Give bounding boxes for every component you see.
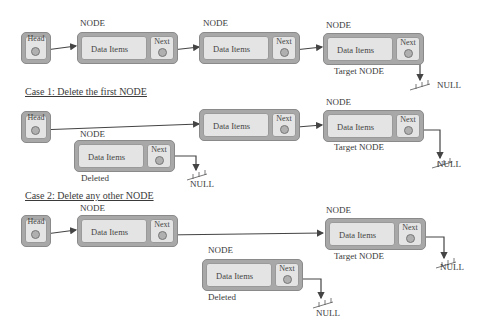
next-pointer: Next xyxy=(150,219,174,243)
pointer-dot-icon xyxy=(158,231,167,240)
deleted-label: Deleted xyxy=(208,292,236,302)
data-items: Data Items xyxy=(329,222,395,246)
data-items: Data Items xyxy=(81,219,147,243)
pointer-dot-icon xyxy=(404,126,413,135)
deleted-label: Deleted xyxy=(81,173,109,183)
node-label: NODE xyxy=(80,18,105,28)
null-label: NULL xyxy=(437,159,461,169)
node-1: Data Items Next xyxy=(77,32,178,64)
head-pointer: Head xyxy=(21,32,51,64)
target-node-label: Target NODE xyxy=(334,251,384,261)
data-items: Data Items xyxy=(81,36,147,60)
node-label: NODE xyxy=(208,245,233,255)
null-label: NULL xyxy=(190,179,214,189)
next-pointer: Next xyxy=(150,36,174,60)
next-pointer: Next xyxy=(396,114,420,138)
null-label: NULL xyxy=(437,80,461,90)
node-label: NODE xyxy=(203,18,228,28)
case-2-title: Case 2: Delete any other NODE xyxy=(25,190,154,201)
pointer-dot-icon xyxy=(155,156,164,165)
data-items: Data Items xyxy=(203,36,269,60)
pointer-dot-icon xyxy=(31,47,40,56)
node-label: NODE xyxy=(80,203,105,213)
head-pointer: Head xyxy=(21,215,51,247)
node-label: NODE xyxy=(80,129,105,139)
pointer-dot-icon xyxy=(31,126,40,135)
case-1-title: Case 1: Delete the first NODE xyxy=(25,86,147,97)
next-pointer: Next xyxy=(398,222,422,246)
node-2: Data Items Next xyxy=(199,109,300,141)
pointer-dot-icon xyxy=(280,125,289,134)
data-items: Data Items xyxy=(203,113,269,137)
head-pointer: Head xyxy=(21,111,51,143)
data-items: Data Items xyxy=(327,114,393,138)
next-pointer: Next xyxy=(396,37,420,61)
node-3-target: Data Items Next xyxy=(325,218,426,250)
target-node-label: Target NODE xyxy=(334,142,384,152)
deleted-node: Data Items Next xyxy=(202,259,303,291)
data-items: Data Items xyxy=(78,144,144,168)
node-1: Data Items Next xyxy=(77,215,178,247)
pointer-dot-icon xyxy=(406,234,415,243)
next-pointer: Next xyxy=(272,113,296,137)
deleted-node: Data Items Next xyxy=(74,140,175,172)
node-3-target: Data Items Next xyxy=(323,110,424,142)
target-node-label: Target NODE xyxy=(334,66,384,76)
next-pointer: Next xyxy=(147,144,171,168)
data-items: Data Items xyxy=(327,37,393,61)
pointer-dot-icon xyxy=(283,275,292,284)
pointer-dot-icon xyxy=(158,48,167,57)
next-pointer: Next xyxy=(275,263,299,287)
node-3-target: Data Items Next xyxy=(323,33,424,65)
data-items: Data Items xyxy=(206,263,272,287)
pointer-dot-icon xyxy=(31,230,40,239)
null-label: NULL xyxy=(440,262,464,272)
node-label: NODE xyxy=(326,20,351,30)
pointer-dot-icon xyxy=(404,49,413,58)
node-label: NODE xyxy=(326,97,351,107)
next-pointer: Next xyxy=(272,36,296,60)
null-label: NULL xyxy=(316,308,340,318)
node-2: Data Items Next xyxy=(199,32,300,64)
pointer-dot-icon xyxy=(280,48,289,57)
node-label: NODE xyxy=(326,205,351,215)
